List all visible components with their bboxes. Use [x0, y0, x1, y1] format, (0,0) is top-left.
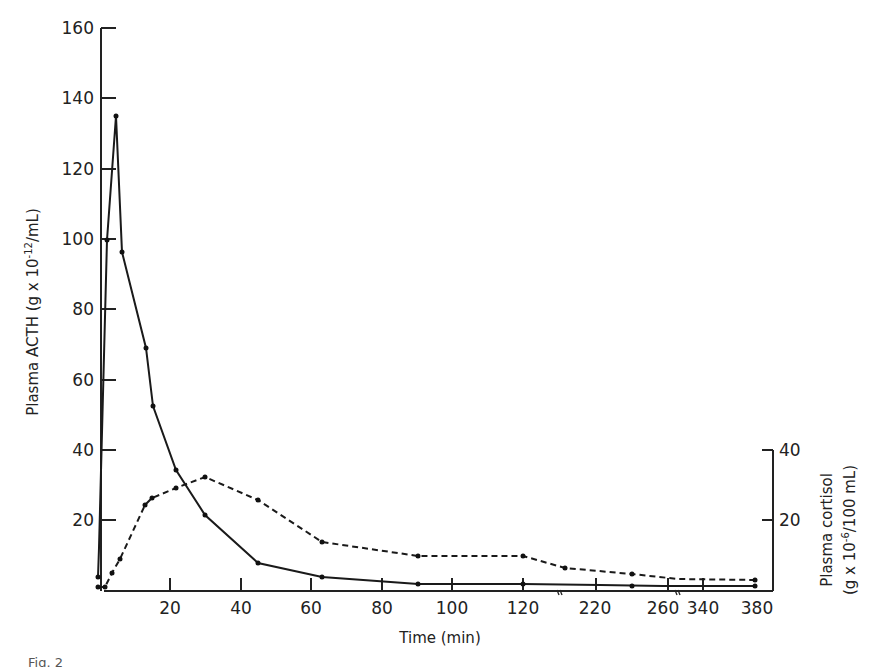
x-tick: 100 [436, 598, 468, 618]
x-tick: 20 [159, 598, 181, 618]
x-tick: 80 [371, 598, 393, 618]
y-left-tick: 20 [72, 510, 94, 530]
x-tick: 120 [507, 598, 539, 618]
x-axis-title: Time (min) [398, 629, 480, 647]
x-tick: 260 [647, 598, 679, 618]
y-right-tick: 20 [779, 510, 801, 530]
y-right-axis-title-line1: Plasma cortisol [818, 473, 836, 587]
y-right-axis-title-line2: (g x 10-6/100 mL) [840, 465, 859, 595]
figure-caption: Fig. 2 [28, 655, 63, 667]
series-cortisol [96, 475, 758, 590]
y-left-tick: 160 [62, 18, 94, 38]
y-left-tick: 60 [72, 370, 94, 390]
y-left-tick: 140 [62, 88, 94, 108]
x-tick: 220 [579, 598, 611, 618]
series-acth [96, 114, 758, 589]
x-tick-labels: 20 40 60 80 100 120 220 260 340 380 [159, 598, 773, 618]
x-tick: 40 [230, 598, 252, 618]
left-y-axis [101, 28, 116, 591]
y-right-tick: 40 [779, 440, 801, 460]
y-left-tick: 80 [72, 299, 94, 319]
x-tick: 60 [300, 598, 322, 618]
y-left-tick: 120 [62, 159, 94, 179]
y-left-tick: 40 [72, 440, 94, 460]
chart-canvas: 20 40 60 80 100 120 140 160 Plasma ACTH … [0, 0, 883, 667]
x-tick: 380 [741, 598, 773, 618]
x-tick: 340 [687, 598, 719, 618]
left-y-tick-labels: 20 40 60 80 100 120 140 160 [62, 18, 94, 530]
y-left-tick: 100 [62, 229, 94, 249]
right-y-axis [762, 450, 773, 591]
y-left-axis-title: Plasma ACTH (g x 10-12/mL) [23, 208, 42, 416]
